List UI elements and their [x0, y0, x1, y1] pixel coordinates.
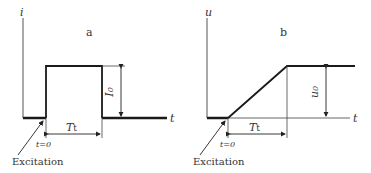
panel-label-a: a — [86, 26, 93, 39]
duration-label-b: Tt — [249, 121, 260, 134]
duration-label-a: Tt — [66, 121, 77, 134]
diagram-canvas: i t a I0 Tt t=0 Excitation u t — [0, 0, 371, 173]
ramp-shape — [228, 66, 355, 118]
excitation-arrow-b — [200, 121, 225, 155]
y-axis-label-a: i — [20, 6, 24, 19]
panel-a: i t a I0 Tt t=0 Excitation — [12, 6, 175, 167]
x-axis-label-b: t — [353, 112, 358, 125]
pulse-shape — [46, 66, 102, 118]
t0-label-b: t=0 — [220, 140, 235, 149]
x-axis-label-a: t — [170, 112, 175, 125]
y-axis-label-b: u — [205, 6, 212, 19]
panel-label-b: b — [280, 26, 287, 39]
t0-label-a: t=0 — [36, 140, 51, 149]
panel-b: u t b u0 Tt t=0 Excitation — [193, 6, 358, 167]
excitation-label-b: Excitation — [193, 156, 245, 167]
excitation-label-a: Excitation — [12, 156, 64, 167]
amplitude-label-a: I0 — [103, 87, 116, 97]
excitation-arrow-a — [18, 121, 43, 155]
amplitude-label-b: u0 — [308, 86, 321, 98]
